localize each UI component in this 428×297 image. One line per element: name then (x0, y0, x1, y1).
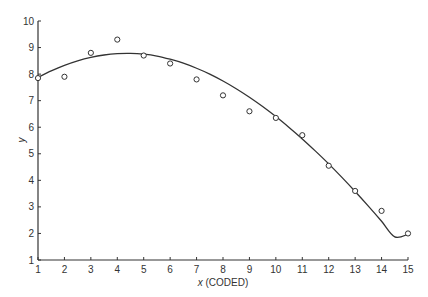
y-tick-label: 3 (28, 201, 34, 212)
x-tick-label: 13 (350, 264, 362, 275)
y-axis-label: y (16, 137, 27, 144)
y-tick-label: 1 (28, 255, 34, 266)
data-point (247, 109, 252, 114)
x-tick-label: 9 (247, 264, 253, 275)
x-tick-label: 14 (376, 264, 388, 275)
data-points (35, 37, 410, 236)
x-tick-label: 6 (167, 264, 173, 275)
x-tick-label: 5 (141, 264, 147, 275)
x-tick-label: 3 (88, 264, 94, 275)
y-tick-label: 2 (28, 228, 34, 239)
y-tick-label: 4 (28, 175, 34, 186)
data-point (379, 208, 384, 213)
x-tick-label: 2 (62, 264, 68, 275)
data-point (300, 133, 305, 138)
x-tick-label: 4 (115, 264, 121, 275)
data-point (141, 53, 146, 58)
x-tick-label: 1 (35, 264, 41, 275)
x-tick-label: 7 (194, 264, 200, 275)
y-tick-label: 9 (28, 42, 34, 53)
x-axis: 123456789101112131415 (35, 257, 414, 275)
data-point (273, 115, 278, 120)
data-point (353, 188, 358, 193)
data-point (62, 74, 67, 79)
x-tick-label: 8 (220, 264, 226, 275)
y-tick-label: 10 (23, 16, 35, 27)
data-point (220, 93, 225, 98)
data-point (194, 77, 199, 82)
data-point (405, 231, 410, 236)
x-tick-label: 11 (297, 264, 308, 275)
x-tick-label: 10 (270, 264, 282, 275)
fitted-curve (38, 53, 408, 237)
x-tick-label: 12 (323, 264, 335, 275)
data-point (88, 50, 93, 55)
y-tick-label: 7 (28, 95, 34, 106)
y-tick-label: 8 (28, 69, 34, 80)
data-point (35, 75, 40, 80)
data-point (326, 163, 331, 168)
chart: 12345678910 123456789101112131415 y x (C… (0, 0, 428, 297)
data-point (115, 37, 120, 42)
x-axis-label: x (CODED) (197, 277, 249, 288)
x-tick-label: 15 (402, 264, 414, 275)
y-tick-label: 5 (28, 148, 34, 159)
y-tick-label: 6 (28, 122, 34, 133)
data-point (168, 61, 173, 66)
